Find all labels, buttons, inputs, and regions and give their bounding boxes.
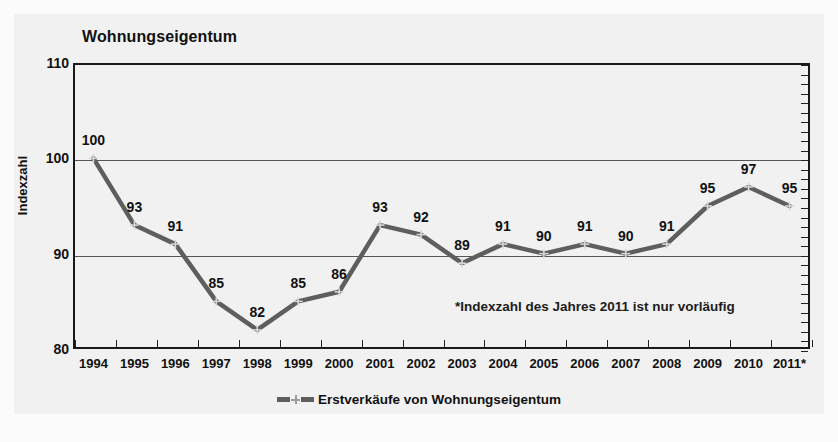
- y-tick-label-90: 90: [25, 247, 69, 261]
- legend-plus-marker-icon: [291, 395, 300, 404]
- chart-page: Wohnungseigentum Indexzahl 8090100110 10…: [0, 0, 838, 442]
- data-label-1996: 91: [152, 218, 198, 234]
- data-label-1999: 85: [275, 275, 321, 291]
- x-axis-ticks: 1994199519961997199819992000200120022003…: [73, 356, 810, 376]
- y-tick-label-80: 80: [25, 342, 69, 356]
- y-axis-ticks: 8090100110: [17, 63, 69, 349]
- data-point-marker: [539, 249, 548, 258]
- data-label-2002: 92: [398, 209, 444, 225]
- right-axis-minor-tick: [801, 351, 808, 352]
- data-label-2003: 89: [439, 237, 485, 253]
- data-label-2010: 97: [726, 161, 772, 177]
- page-title: Wohnungseigentum: [82, 28, 237, 46]
- data-label-2004: 91: [480, 218, 526, 234]
- y-tick-label-100: 100: [25, 151, 69, 165]
- chart-legend: Erstverkäufe von Wohnungseigentum: [0, 392, 838, 407]
- legend-entry: Erstverkäufe von Wohnungseigentum: [277, 392, 561, 407]
- y-tick-label-110: 110: [25, 56, 69, 70]
- data-point-marker: [580, 240, 589, 249]
- legend-line-right-icon: [301, 397, 314, 402]
- data-label-2007: 90: [603, 228, 649, 244]
- data-label-1994: 100: [70, 132, 116, 148]
- data-label-1998: 82: [234, 304, 280, 320]
- data-label-2005: 90: [521, 228, 567, 244]
- footnote-text: *Indexzahl des Jahres 2011 ist nur vorlä…: [455, 299, 735, 314]
- cutoff-caption: [0, 430, 838, 442]
- data-label-1997: 85: [193, 275, 239, 291]
- x-tick-label-2011: 2011*: [765, 356, 815, 371]
- data-label-2006: 91: [562, 218, 608, 234]
- legend-label: Erstverkäufe von Wohnungseigentum: [318, 392, 561, 407]
- data-point-marker: [621, 249, 630, 258]
- data-label-2008: 91: [644, 218, 690, 234]
- data-label-2009: 95: [685, 180, 731, 196]
- data-label-2011: 95: [767, 180, 813, 196]
- x-axis-tick: [812, 340, 813, 347]
- data-label-2001: 93: [357, 199, 403, 215]
- data-label-1995: 93: [111, 199, 157, 215]
- legend-line-left-icon: [277, 397, 290, 402]
- data-label-2000: 86: [316, 266, 362, 282]
